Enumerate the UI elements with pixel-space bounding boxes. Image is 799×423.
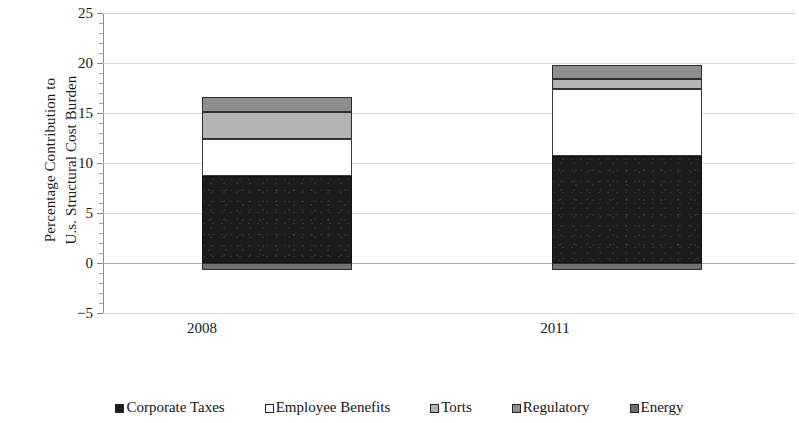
bar-segment-2011-torts[interactable]	[552, 79, 702, 89]
bar-segment-2011-corporate-taxes[interactable]	[552, 156, 702, 263]
legend-item-energy[interactable]: Energy	[630, 400, 684, 415]
bar-2011[interactable]	[552, 13, 702, 313]
legend-swatch-corporate-taxes-icon	[115, 404, 124, 413]
bar-segment-2011-regulatory[interactable]	[552, 65, 702, 79]
y-tick-label-0: 0	[53, 256, 93, 271]
bar-segment-2011-energy[interactable]	[552, 263, 702, 270]
legend-label-employee-benefits: Employee Benefits	[276, 400, 391, 415]
legend-swatch-employee-benefits-icon	[265, 404, 274, 413]
y-tick-label-10: 10	[53, 156, 93, 171]
plot-area	[103, 13, 795, 313]
legend-label-energy: Energy	[641, 400, 684, 415]
chart-legend: Corporate Taxes Employee Benefits Torts …	[0, 396, 799, 418]
y-tick-label-25: 25	[53, 6, 93, 21]
y-axis-tick-labels: 25 20 15 10 5 0 −5	[50, 0, 93, 330]
bar-segment-2011-employee-benefits[interactable]	[552, 89, 702, 156]
y-tick-label-20: 20	[53, 56, 93, 71]
x-tick-label-2011: 2011	[475, 320, 635, 337]
legend-item-torts[interactable]: Torts	[430, 400, 472, 415]
legend-item-employee-benefits[interactable]: Employee Benefits	[265, 400, 391, 415]
legend-label-corporate-taxes: Corporate Taxes	[126, 400, 224, 415]
bar-segment-2008-torts[interactable]	[202, 112, 352, 139]
bar-segment-2008-energy[interactable]	[202, 263, 352, 270]
legend-label-regulatory: Regulatory	[523, 400, 590, 415]
legend-item-corporate-taxes[interactable]: Corporate Taxes	[115, 400, 224, 415]
bar-segment-2008-corporate-taxes[interactable]	[202, 176, 352, 263]
y-tick-label-15: 15	[53, 106, 93, 121]
legend-item-regulatory[interactable]: Regulatory	[512, 400, 590, 415]
legend-swatch-energy-icon	[630, 404, 639, 413]
legend-label-torts: Torts	[441, 400, 472, 415]
legend-swatch-regulatory-icon	[512, 404, 521, 413]
bar-2008[interactable]	[202, 13, 352, 313]
bar-segment-2008-regulatory[interactable]	[202, 97, 352, 112]
bar-segment-2008-employee-benefits[interactable]	[202, 139, 352, 176]
legend-swatch-torts-icon	[430, 404, 439, 413]
stacked-bar-chart: Percentage Contribution to U.s. Structur…	[0, 0, 799, 423]
y-tick-label-5: 5	[53, 206, 93, 221]
y-tick-label-neg5: −5	[53, 306, 93, 321]
x-tick-label-2008: 2008	[122, 320, 282, 337]
gridline-neg5	[103, 313, 795, 314]
